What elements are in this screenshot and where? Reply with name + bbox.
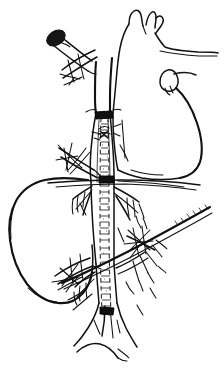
distal-marker-band (100, 307, 114, 315)
anatomical-line-drawing (0, 0, 224, 375)
canvas-background (0, 0, 224, 375)
figure-canvas (0, 0, 224, 375)
proximal-marker-band (95, 111, 113, 119)
